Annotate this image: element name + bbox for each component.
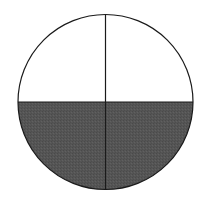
shaded-quarter-bottom-left bbox=[18, 102, 106, 190]
fraction-circle-diagram bbox=[0, 0, 210, 206]
shaded-quarter-bottom-right bbox=[106, 102, 194, 190]
